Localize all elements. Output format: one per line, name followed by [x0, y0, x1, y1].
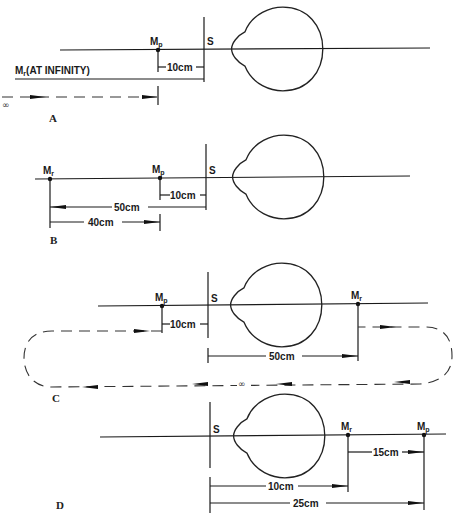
- arrow-right-icon: [408, 501, 424, 505]
- arrow-left-icon: [82, 385, 98, 389]
- dim-label-10cm: 10cm: [170, 319, 196, 330]
- arrow-right-icon: [332, 484, 348, 488]
- far-point-label: Mr: [43, 165, 54, 177]
- spectacle-plane-label: S: [209, 165, 216, 176]
- panel-c: Mp S Mr 10cm 50cm ∞ C: [24, 263, 452, 404]
- infinity-symbol: ∞: [2, 100, 10, 110]
- optical-axis: [100, 434, 446, 437]
- panel-label-b: B: [50, 234, 58, 246]
- dim-label-25cm: 25cm: [293, 498, 319, 509]
- far-point-label: Mr: [341, 421, 352, 433]
- near-point-label: Mp: [150, 36, 163, 49]
- panel-a: Mp S 10cm Mr(AT INFINITY) ∞ A: [2, 7, 430, 124]
- panel-d: S Mr Mp 15cm 10cm 25cm D: [56, 394, 446, 513]
- panel-label-a: A: [49, 112, 57, 124]
- arrow-right-icon: [30, 95, 46, 99]
- far-point-label: Mr: [351, 290, 362, 302]
- dim-label-10cm: 10cm: [268, 481, 294, 492]
- near-point-label: Mp: [155, 292, 168, 305]
- spectacle-plane-label: S: [213, 424, 220, 435]
- far-point-label: Mr(AT INFINITY): [15, 65, 90, 77]
- arrow-right-icon: [342, 354, 358, 358]
- panel-label-c: C: [52, 392, 60, 404]
- arrow-right-icon: [380, 325, 396, 329]
- optics-diagram: Mp S 10cm Mr(AT INFINITY) ∞ A Mr Mp S 10…: [0, 0, 456, 522]
- optical-axis: [35, 176, 410, 179]
- dim-label-50cm: 50cm: [269, 351, 295, 362]
- arrow-left-icon: [276, 382, 292, 386]
- panel-b: Mr Mp S 10cm 50cm 40cm B: [35, 135, 410, 246]
- dim-label-10cm: 10cm: [167, 62, 193, 73]
- spectacle-plane-label: S: [207, 36, 214, 47]
- dim-label-40cm: 40cm: [88, 217, 114, 228]
- arrow-left-icon: [394, 380, 410, 384]
- optical-axis: [98, 303, 428, 306]
- near-point-label: Mp: [417, 421, 430, 434]
- dim-label-10cm: 10cm: [170, 190, 196, 201]
- arrow-left-icon: [50, 205, 66, 209]
- near-point-label: Mp: [152, 164, 165, 177]
- spectacle-plane-label: S: [211, 293, 218, 304]
- dim-label-50cm: 50cm: [114, 202, 140, 213]
- arrow-right-icon: [134, 329, 150, 333]
- arrow-right-icon: [144, 220, 160, 224]
- arrow-right-icon: [142, 95, 158, 99]
- arrow-right-icon: [408, 450, 424, 454]
- infinity-symbol: ∞: [238, 379, 246, 389]
- optical-axis: [60, 48, 430, 50]
- panel-label-d: D: [56, 499, 64, 511]
- dim-label-15cm: 15cm: [373, 447, 399, 458]
